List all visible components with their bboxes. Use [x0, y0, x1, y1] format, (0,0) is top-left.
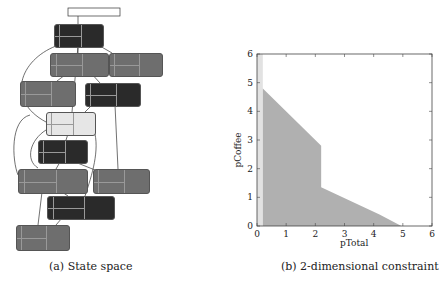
state-node: [38, 140, 88, 164]
state-node: [20, 81, 76, 107]
x-tick-label: 1: [283, 229, 289, 239]
state-node: [47, 196, 115, 220]
y-axis-label: pCoffee: [233, 132, 243, 167]
x-tick-label: 4: [371, 229, 377, 239]
y-tick-label: 4: [247, 106, 253, 116]
y-tick-label: 1: [247, 192, 253, 202]
x-tick-label: 5: [400, 229, 406, 239]
y-tick-label: 0: [247, 221, 253, 231]
region-feasible-region: [263, 88, 402, 226]
state-node: [18, 169, 88, 194]
y-tick-label: 2: [247, 164, 253, 174]
x-tick-label: 2: [312, 229, 318, 239]
x-tick-label: 0: [254, 229, 260, 239]
state-node: [93, 169, 150, 194]
y-tick-label: 3: [247, 135, 253, 145]
state-node: [46, 112, 96, 136]
y-tick-label: 6: [247, 49, 253, 59]
constraint-chart: 01234560123456 pTotal pCoffee: [230, 40, 439, 250]
state-node: [85, 83, 141, 107]
state-space-panel: [0, 0, 220, 255]
y-tick-label: 5: [247, 78, 253, 88]
state-node: [50, 53, 109, 77]
x-tick-label: 6: [429, 229, 435, 239]
caption-a: (a) State space: [49, 260, 133, 273]
state-node: [54, 24, 104, 48]
chart-plot: 01234560123456: [230, 40, 439, 250]
x-axis-label: pTotal: [340, 238, 368, 248]
caption-b: (b) 2-dimensional constraint: [281, 260, 439, 273]
state-node: [109, 53, 163, 77]
state-node: [16, 225, 70, 251]
